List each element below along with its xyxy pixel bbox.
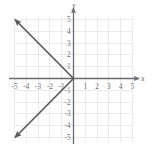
y-tick-label: -1 [65,87,71,95]
y-tick-label: -3 [65,110,71,118]
x-tick-label: -5 [12,83,18,91]
x-tick-label: 2 [95,83,99,91]
y-tick-label: 3 [67,40,71,48]
x-tick-label: 1 [84,83,88,91]
y-tick-label: 1 [67,63,71,71]
y-tick-label: 5 [67,16,71,24]
x-tick-label: 5 [131,83,135,91]
x-axis-label: x [140,74,145,83]
y-tick-label: 4 [67,28,71,36]
x-tick-label: 3 [107,83,111,91]
y-tick-label: -4 [65,122,71,130]
x-tick-label: -4 [23,83,29,91]
y-axis-label: y [71,1,76,10]
x-tick-label: 4 [119,83,123,91]
ray-upper-left [15,20,74,79]
y-tick-label: -5 [65,134,71,142]
y-tick-label: 2 [67,51,71,59]
coordinate-plane-graph: x y -5 -4 -3 -2 -1 1 2 3 4 5 5 4 3 2 1 -… [0,0,152,149]
graph-canvas: x y -5 -4 -3 -2 -1 1 2 3 4 5 5 4 3 2 1 -… [0,0,152,149]
x-tick-label: -3 [35,83,41,91]
y-tick-label: -2 [65,99,71,107]
x-tick-label: -2 [47,83,53,91]
